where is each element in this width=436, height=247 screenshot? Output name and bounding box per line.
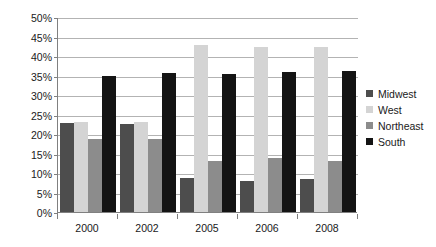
y-axis-tick-label: 10% bbox=[6, 169, 52, 180]
x-axis-labels: 20002002200520062008 bbox=[57, 214, 357, 244]
bar-west-2002 bbox=[134, 122, 148, 212]
y-axis-tick-mark bbox=[54, 116, 58, 117]
bar-west-2005 bbox=[194, 45, 208, 212]
y-axis-tick-label: 40% bbox=[6, 52, 52, 63]
x-axis-tick-mark bbox=[117, 214, 118, 219]
bar-south-2008 bbox=[342, 71, 356, 212]
bar-group bbox=[60, 17, 116, 212]
legend-item-northeast[interactable]: Northeast bbox=[366, 118, 436, 133]
bar-group bbox=[300, 17, 356, 212]
x-axis-tick-mark bbox=[357, 214, 358, 219]
legend-item-west[interactable]: West bbox=[366, 102, 436, 117]
y-axis-tick-label: 5% bbox=[6, 189, 52, 200]
bar-south-2000 bbox=[102, 76, 116, 213]
x-axis-tick-label: 2000 bbox=[57, 222, 117, 234]
legend-item-midwest[interactable]: Midwest bbox=[366, 86, 436, 101]
plot-area bbox=[57, 18, 357, 213]
bar-group bbox=[180, 17, 236, 212]
y-axis-tick-label: 25% bbox=[6, 111, 52, 122]
legend-label: West bbox=[378, 104, 402, 116]
bar-south-2005 bbox=[222, 74, 236, 212]
x-axis-tick-mark bbox=[237, 214, 238, 219]
y-axis-tick-label: 20% bbox=[6, 130, 52, 141]
bar-northeast-2002 bbox=[148, 139, 162, 212]
x-axis-tick-label: 2006 bbox=[237, 222, 297, 234]
y-axis-tick-mark bbox=[54, 135, 58, 136]
y-axis-tick-mark bbox=[54, 96, 58, 97]
x-axis-tick-label: 2008 bbox=[297, 222, 357, 234]
y-axis-tick-mark bbox=[54, 57, 58, 58]
bar-west-2000 bbox=[74, 122, 88, 212]
legend-swatch-icon bbox=[366, 122, 373, 129]
x-axis-tick-mark bbox=[57, 214, 58, 219]
bar-south-2006 bbox=[282, 72, 296, 212]
x-axis-tick-label: 2002 bbox=[117, 222, 177, 234]
bar-south-2002 bbox=[162, 73, 176, 212]
legend-label: Midwest bbox=[378, 88, 417, 100]
bar-west-2008 bbox=[314, 47, 328, 212]
bar-midwest-2000 bbox=[60, 123, 74, 212]
legend-label: Northeast bbox=[378, 120, 424, 132]
bar-midwest-2005 bbox=[180, 178, 194, 212]
bar-west-2006 bbox=[254, 47, 268, 212]
bar-group bbox=[240, 17, 296, 212]
bar-midwest-2006 bbox=[240, 181, 254, 212]
legend-label: South bbox=[378, 136, 405, 148]
legend-swatch-icon bbox=[366, 138, 373, 145]
bar-midwest-2008 bbox=[300, 179, 314, 212]
chart-legend: MidwestWestNortheastSouth bbox=[366, 86, 436, 150]
x-axis-tick-mark bbox=[177, 214, 178, 219]
y-axis-tick-mark bbox=[54, 38, 58, 39]
y-axis-tick-label: 50% bbox=[6, 13, 52, 24]
bar-chart: 0%5%10%15%20%25%30%35%40%45%50% 20002002… bbox=[0, 0, 436, 247]
y-axis-tick-label: 35% bbox=[6, 72, 52, 83]
bar-group bbox=[120, 17, 176, 212]
bar-northeast-2008 bbox=[328, 161, 342, 212]
legend-swatch-icon bbox=[366, 90, 373, 97]
y-axis-tick-label: 45% bbox=[6, 33, 52, 44]
bar-northeast-2005 bbox=[208, 161, 222, 212]
y-axis-tick-mark bbox=[54, 194, 58, 195]
y-axis-tick-mark bbox=[54, 155, 58, 156]
y-axis-tick-label: 30% bbox=[6, 91, 52, 102]
y-axis-tick-mark bbox=[54, 77, 58, 78]
y-axis-tick-mark bbox=[54, 174, 58, 175]
legend-item-south[interactable]: South bbox=[366, 134, 436, 149]
bar-midwest-2002 bbox=[120, 124, 134, 212]
y-axis-tick-label: 0% bbox=[6, 208, 52, 219]
y-axis-tick-label: 15% bbox=[6, 150, 52, 161]
legend-swatch-icon bbox=[366, 106, 373, 113]
y-axis-tick-mark bbox=[54, 18, 58, 19]
bar-northeast-2006 bbox=[268, 158, 282, 212]
y-axis-labels: 0%5%10%15%20%25%30%35%40%45%50% bbox=[0, 18, 52, 213]
x-axis-tick-label: 2005 bbox=[177, 222, 237, 234]
bar-northeast-2000 bbox=[88, 139, 102, 212]
x-axis-tick-mark bbox=[297, 214, 298, 219]
